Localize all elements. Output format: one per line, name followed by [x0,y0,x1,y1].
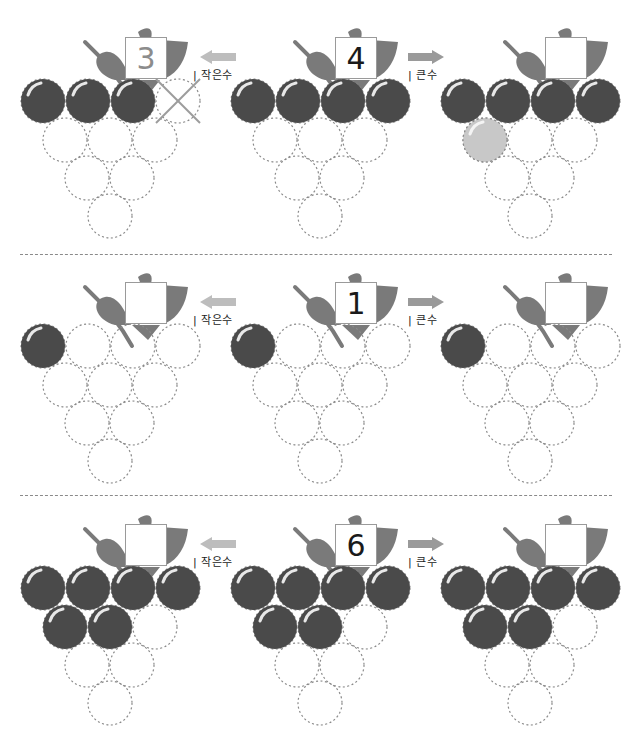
grape-bunch-icon [440,0,638,240]
grape-filled [21,566,65,610]
grape-cluster-given: 6 [230,487,430,727]
dashed-divider-1 [20,254,612,255]
arrow-left-icon [200,49,236,63]
grape-bunch-icon [230,487,430,727]
grape-filled [508,605,552,649]
grape-filled [366,79,410,123]
dashed-divider-2 [20,495,612,496]
arrow-right-icon [408,536,444,550]
grape-bunch-icon [230,245,430,485]
answer-number-box-smaller[interactable] [125,524,167,566]
larger-number-label: | 큰수 [408,66,437,82]
arrow-right-icon [408,294,444,308]
grape-filled [321,566,365,610]
grape-filled [231,79,275,123]
given-number-box: 6 [335,524,377,566]
answer-number-box-larger[interactable] [545,37,587,79]
grape-filled [576,79,620,123]
grape-bunch-icon [440,245,638,485]
problem-row-1: 34| 작은수| 큰수 [0,0,638,240]
answer-number-box-smaller[interactable] [125,282,167,324]
larger-number-label: | 큰수 [408,311,437,327]
grape-filled [276,566,320,610]
grape-filled [66,566,110,610]
arrow-left-icon [200,294,236,308]
grape-filled [531,79,575,123]
grape-cluster-larger [440,0,638,240]
answer-number-box-larger[interactable] [545,524,587,566]
grape-example-added [463,118,507,162]
grape-filled [253,605,297,649]
grape-bunch-icon [20,487,220,727]
grape-cluster-larger [440,245,638,485]
grape-bunch-icon [20,245,220,485]
given-number-box: 4 [335,37,377,79]
grape-bunch-icon [440,487,638,727]
grape-filled [486,566,530,610]
grape-filled [576,566,620,610]
grape-filled [88,605,132,649]
smaller-number-label: | 작은수 [193,553,233,569]
arrow-left-icon [200,536,236,550]
given-number-box: 1 [335,282,377,324]
grape-filled [276,79,320,123]
grape-filled [441,566,485,610]
grape-cluster-given: 4 [230,0,430,240]
grape-filled [21,324,65,368]
grape-filled [441,324,485,368]
answer-number-box-larger[interactable] [545,282,587,324]
answer-number-box-smaller[interactable]: 3 [125,37,167,79]
grape-filled [231,324,275,368]
grape-filled [298,605,342,649]
grape-cluster-smaller [20,245,220,485]
grape-filled [111,566,155,610]
grape-filled [231,566,275,610]
grape-filled [21,79,65,123]
grape-filled [321,79,365,123]
problem-row-2: 1| 작은수| 큰수 [0,245,638,485]
problem-row-3: 6| 작은수| 큰수 [0,487,638,727]
smaller-number-label: | 작은수 [193,311,233,327]
cross-out-mark [156,79,200,123]
grape-filled [156,566,200,610]
arrow-right-icon [408,49,444,63]
grape-filled [366,566,410,610]
grape-cluster-given: 1 [230,245,430,485]
grape-filled [441,79,485,123]
larger-number-label: | 큰수 [408,553,437,569]
grape-cluster-smaller: 3 [20,0,220,240]
grape-cluster-smaller [20,487,220,727]
grape-bunch-icon [20,0,220,240]
grape-filled [111,79,155,123]
grape-filled [531,566,575,610]
grape-filled [463,605,507,649]
grape-filled [43,605,87,649]
grape-filled [486,79,530,123]
smaller-number-label: | 작은수 [193,66,233,82]
grape-cluster-larger [440,487,638,727]
grape-bunch-icon [230,0,430,240]
grape-filled [66,79,110,123]
